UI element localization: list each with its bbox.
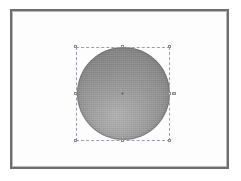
rotation-handle[interactable]	[172, 92, 176, 95]
resize-handle-bottom-center[interactable]	[121, 139, 124, 142]
object-label: Sphere	[0, 0, 1, 1]
resize-handle-middle-left[interactable]	[74, 92, 77, 95]
document-frame-label: Document page	[0, 0, 1, 1]
resize-handle-bottom-left[interactable]	[74, 139, 77, 142]
selection-label: Selection bounding box	[0, 0, 1, 1]
canvas-label: Image canvas	[0, 0, 1, 1]
resize-handle-top-right[interactable]	[168, 45, 171, 48]
image-canvas[interactable]: Sphere Selection bounding box Document p…	[0, 0, 241, 181]
resize-handle-top-left[interactable]	[74, 45, 77, 48]
selection-bounding-box[interactable]	[76, 47, 170, 141]
resize-handle-top-center[interactable]	[121, 45, 124, 48]
resize-handle-middle-right[interactable]	[168, 92, 171, 95]
resize-handle-bottom-right[interactable]	[168, 139, 171, 142]
